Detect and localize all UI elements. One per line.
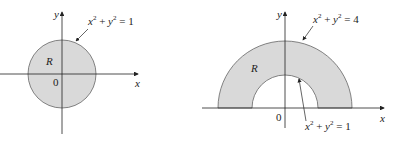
region-label: R <box>251 63 258 74</box>
disk-equation: x2 + y2 = 1 <box>88 15 134 27</box>
inner-circle-equation: x2 + y2 = 1 <box>305 120 351 132</box>
region-label: R <box>46 56 53 67</box>
origin-label: 0 <box>53 77 59 88</box>
y-axis-label: y <box>277 9 282 20</box>
origin-label: 0 <box>276 112 282 123</box>
half-annulus-figure <box>202 12 384 128</box>
x-axis-label: x <box>135 78 140 89</box>
outer-circle-equation: x2 + y2 = 4 <box>313 13 359 25</box>
disk-figure <box>0 12 138 134</box>
outer-leader-line <box>303 26 313 40</box>
inner-leader-line <box>299 79 306 121</box>
y-axis-label: y <box>54 9 59 20</box>
leader-line <box>76 29 88 41</box>
x-axis-label: x <box>380 113 385 124</box>
